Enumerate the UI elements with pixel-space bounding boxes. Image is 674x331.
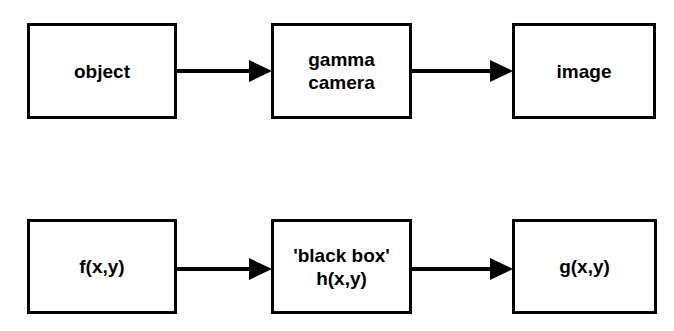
arrow-head-icon (249, 258, 272, 280)
arrow-head-icon (490, 60, 513, 82)
node-label-f-xy: f(x,y) (79, 255, 124, 278)
arrow-object-to-gamma-camera (177, 60, 272, 82)
node-box-g-xy: g(x,y) (512, 219, 657, 314)
arrow-head-icon (249, 60, 272, 82)
arrow-f-to-h (177, 258, 272, 280)
node-box-gamma-camera: gamma camera (271, 23, 412, 119)
node-box-black-box-h-xy: 'black box' h(x,y) (271, 219, 412, 314)
arrow-shaft (412, 267, 492, 271)
node-label-gamma-camera: gamma camera (308, 48, 375, 94)
arrow-head-icon (490, 258, 513, 280)
arrow-shaft (177, 69, 251, 73)
node-box-object: object (27, 23, 177, 119)
arrow-shaft (177, 267, 251, 271)
arrow-h-to-g (412, 258, 513, 280)
node-label-object: object (74, 60, 130, 83)
node-label-image: image (557, 60, 612, 83)
arrow-shaft (412, 69, 492, 73)
arrow-gamma-camera-to-image (412, 60, 513, 82)
node-box-image: image (512, 23, 656, 119)
diagram-canvas: object gamma camera image f(x,y) 'black … (0, 0, 674, 331)
node-box-f-xy: f(x,y) (27, 219, 177, 314)
node-label-g-xy: g(x,y) (559, 255, 610, 278)
node-label-black-box-h-xy: 'black box' h(x,y) (293, 244, 390, 290)
